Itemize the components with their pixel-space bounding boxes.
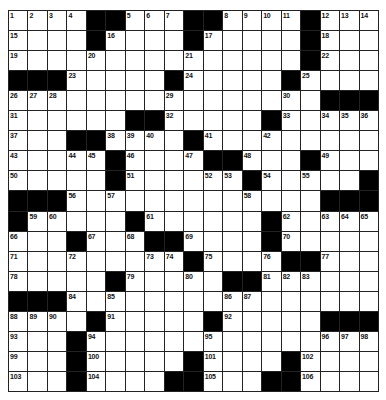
answer-cell[interactable] [145,312,163,331]
answer-cell[interactable] [301,131,319,150]
answer-cell[interactable]: 58 [243,191,261,210]
answer-cell[interactable] [262,332,280,351]
answer-cell[interactable]: 47 [184,151,202,170]
answer-cell[interactable] [67,91,85,110]
answer-cell[interactable] [145,151,163,170]
answer-cell[interactable]: 64 [340,212,358,231]
answer-cell[interactable]: 28 [48,91,66,110]
answer-cell[interactable] [223,212,241,231]
answer-cell[interactable] [48,272,66,291]
answer-cell[interactable]: 68 [126,232,144,251]
answer-cell[interactable] [204,71,222,90]
answer-cell[interactable]: 66 [9,232,27,251]
answer-cell[interactable] [126,252,144,271]
answer-cell[interactable] [321,272,339,291]
answer-cell[interactable] [301,232,319,251]
answer-cell[interactable]: 72 [67,252,85,271]
answer-cell[interactable] [184,171,202,190]
answer-cell[interactable] [223,252,241,271]
answer-cell[interactable] [67,212,85,231]
answer-cell[interactable] [87,292,105,311]
answer-cell[interactable]: 45 [87,151,105,170]
answer-cell[interactable] [223,111,241,130]
answer-cell[interactable] [321,372,339,391]
answer-cell[interactable] [340,252,358,271]
answer-cell[interactable]: 69 [184,232,202,251]
answer-cell[interactable] [87,111,105,130]
answer-cell[interactable] [262,292,280,311]
answer-cell[interactable] [223,232,241,251]
answer-cell[interactable] [48,352,66,371]
answer-cell[interactable]: 98 [360,332,378,351]
answer-cell[interactable] [301,312,319,331]
answer-cell[interactable] [145,332,163,351]
answer-cell[interactable] [165,151,183,170]
answer-cell[interactable]: 55 [301,171,319,190]
answer-cell[interactable]: 87 [243,292,261,311]
answer-cell[interactable] [262,51,280,70]
answer-cell[interactable] [165,131,183,150]
answer-cell[interactable] [282,51,300,70]
answer-cell[interactable] [165,171,183,190]
answer-cell[interactable]: 84 [67,292,85,311]
answer-cell[interactable]: 99 [9,352,27,371]
answer-cell[interactable] [165,191,183,210]
answer-cell[interactable] [340,372,358,391]
answer-cell[interactable] [243,31,261,50]
answer-cell[interactable] [301,91,319,110]
answer-cell[interactable]: 56 [67,191,85,210]
answer-cell[interactable]: 39 [126,131,144,150]
answer-cell[interactable] [106,111,124,130]
answer-cell[interactable] [184,292,202,311]
answer-cell[interactable] [28,352,46,371]
answer-cell[interactable] [340,71,358,90]
answer-cell[interactable] [223,131,241,150]
answer-cell[interactable] [184,91,202,110]
answer-cell[interactable] [340,171,358,190]
answer-cell[interactable] [262,312,280,331]
answer-cell[interactable] [360,252,378,271]
answer-cell[interactable] [282,151,300,170]
answer-cell[interactable] [28,332,46,351]
answer-cell[interactable] [223,372,241,391]
answer-cell[interactable] [321,352,339,371]
answer-cell[interactable] [360,51,378,70]
answer-cell[interactable] [204,232,222,251]
answer-cell[interactable]: 75 [204,252,222,271]
answer-cell[interactable] [243,131,261,150]
answer-cell[interactable] [360,352,378,371]
answer-cell[interactable]: 29 [165,91,183,110]
answer-cell[interactable] [243,312,261,331]
answer-cell[interactable] [165,31,183,50]
answer-cell[interactable]: 33 [282,111,300,130]
answer-cell[interactable]: 100 [87,352,105,371]
answer-cell[interactable] [223,332,241,351]
answer-cell[interactable] [243,71,261,90]
answer-cell[interactable]: 93 [9,332,27,351]
answer-cell[interactable]: 76 [262,252,280,271]
answer-cell[interactable]: 2 [28,11,46,30]
answer-cell[interactable] [262,91,280,110]
answer-cell[interactable] [301,292,319,311]
answer-cell[interactable] [67,312,85,331]
answer-cell[interactable]: 42 [262,131,280,150]
answer-cell[interactable]: 60 [48,212,66,231]
answer-cell[interactable]: 37 [9,131,27,150]
answer-cell[interactable]: 67 [87,232,105,251]
answer-cell[interactable] [28,151,46,170]
answer-cell[interactable] [165,272,183,291]
answer-cell[interactable] [340,272,358,291]
answer-cell[interactable] [282,131,300,150]
answer-cell[interactable] [126,71,144,90]
answer-cell[interactable]: 61 [145,212,163,231]
answer-cell[interactable]: 7 [165,11,183,30]
answer-cell[interactable] [67,171,85,190]
answer-cell[interactable] [223,31,241,50]
answer-cell[interactable] [262,352,280,371]
answer-cell[interactable] [106,91,124,110]
answer-cell[interactable] [48,31,66,50]
answer-cell[interactable]: 34 [321,111,339,130]
answer-cell[interactable]: 101 [204,352,222,371]
answer-cell[interactable] [48,151,66,170]
answer-cell[interactable] [165,332,183,351]
